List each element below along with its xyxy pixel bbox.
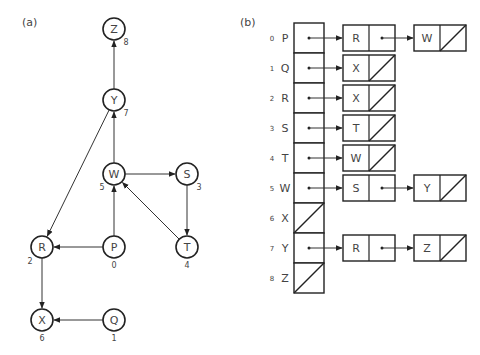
panel-b-adjacency-list: (b) 0PRW1QX2RX3ST4TW5WSY6X7YRZ8Z bbox=[240, 16, 466, 293]
edge-T-to-W bbox=[122, 182, 179, 239]
node-label: Y bbox=[110, 94, 118, 107]
adjacency-row-Z: 8Z bbox=[270, 263, 324, 293]
adjacency-row-Y: 7YRZ bbox=[270, 233, 466, 263]
list-node-label: T bbox=[352, 122, 360, 135]
panel-a-label: (a) bbox=[22, 16, 37, 29]
row-index: 7 bbox=[270, 245, 274, 253]
list-node-S: S bbox=[343, 175, 413, 201]
node-label: T bbox=[183, 241, 191, 254]
panel-b-label: (b) bbox=[240, 16, 256, 29]
row-vertex: S bbox=[282, 122, 289, 135]
node-index: 1 bbox=[111, 334, 116, 343]
node-S: S3 bbox=[176, 163, 202, 192]
list-node-Z: Z bbox=[414, 235, 466, 261]
adjacency-row-X: 6X bbox=[270, 203, 324, 233]
list-node-label: S bbox=[353, 182, 360, 195]
node-index: 0 bbox=[111, 261, 116, 270]
node-label: R bbox=[38, 241, 46, 254]
adjacency-row-R: 2RX bbox=[270, 83, 395, 113]
row-index: 6 bbox=[270, 215, 275, 223]
row-index: 8 bbox=[270, 275, 274, 283]
row-index: 5 bbox=[270, 185, 274, 193]
row-vertex: Q bbox=[281, 62, 290, 75]
adjacency-row-W: 5WSY bbox=[270, 173, 466, 203]
list-node-label: R bbox=[352, 242, 360, 255]
row-vertex: Y bbox=[281, 242, 289, 255]
list-node-R: R bbox=[343, 235, 413, 261]
row-vertex: Z bbox=[281, 272, 289, 285]
list-node-Y: Y bbox=[414, 175, 466, 201]
node-index: 2 bbox=[27, 257, 32, 266]
list-node-label: Y bbox=[423, 182, 431, 195]
row-index: 3 bbox=[270, 125, 274, 133]
list-node-label: W bbox=[351, 152, 362, 165]
adjacency-row-P: 0PRW bbox=[270, 23, 466, 53]
list-node-T: T bbox=[343, 115, 395, 141]
row-vertex: P bbox=[282, 32, 289, 45]
row-vertex: T bbox=[281, 152, 289, 165]
node-label: W bbox=[109, 168, 120, 181]
node-W: W5 bbox=[99, 163, 125, 192]
node-P: P0 bbox=[103, 236, 125, 270]
node-label: X bbox=[38, 314, 46, 327]
node-label: Z bbox=[110, 23, 118, 36]
node-index: 6 bbox=[39, 334, 44, 343]
list-node-label: X bbox=[352, 62, 360, 75]
node-index: 3 bbox=[196, 183, 201, 192]
node-index: 4 bbox=[184, 261, 189, 270]
node-index: 7 bbox=[123, 109, 128, 118]
row-index: 2 bbox=[270, 95, 274, 103]
node-index: 5 bbox=[99, 183, 104, 192]
list-node-label: W bbox=[422, 32, 433, 45]
row-vertex: W bbox=[280, 182, 291, 195]
list-node-label: R bbox=[352, 32, 360, 45]
panel-a-directed-graph: (a) Z8Y7W5S3R2P0T4X6Q1 bbox=[22, 16, 202, 343]
node-X: X6 bbox=[31, 309, 53, 343]
node-label: S bbox=[184, 168, 191, 181]
adjacency-rows: 0PRW1QX2RX3ST4TW5WSY6X7YRZ8Z bbox=[270, 23, 466, 293]
node-R: R2 bbox=[27, 236, 53, 266]
list-node-W: W bbox=[343, 145, 395, 171]
row-vertex: R bbox=[281, 92, 289, 105]
row-vertex: X bbox=[281, 212, 289, 225]
node-Z: Z8 bbox=[103, 18, 129, 47]
adjacency-row-S: 3ST bbox=[270, 113, 395, 143]
list-node-R: R bbox=[343, 25, 413, 51]
node-index: 8 bbox=[123, 38, 128, 47]
row-index: 4 bbox=[270, 155, 275, 163]
node-label: P bbox=[111, 241, 118, 254]
node-T: T4 bbox=[176, 236, 198, 270]
list-node-label: Z bbox=[423, 242, 431, 255]
node-label: Q bbox=[110, 314, 119, 327]
adjacency-row-T: 4TW bbox=[270, 143, 395, 173]
list-node-label: X bbox=[352, 92, 360, 105]
node-Q: Q1 bbox=[103, 309, 125, 343]
row-index: 1 bbox=[270, 65, 274, 73]
graph-diagram: (a) Z8Y7W5S3R2P0T4X6Q1 (b) 0PRW1QX2RX3ST… bbox=[0, 0, 480, 355]
list-node-X: X bbox=[343, 55, 395, 81]
edge-Y-to-R bbox=[47, 110, 109, 236]
adjacency-row-Q: 1QX bbox=[270, 53, 395, 83]
list-node-W: W bbox=[414, 25, 466, 51]
list-node-X: X bbox=[343, 85, 395, 111]
row-index: 0 bbox=[270, 35, 274, 43]
